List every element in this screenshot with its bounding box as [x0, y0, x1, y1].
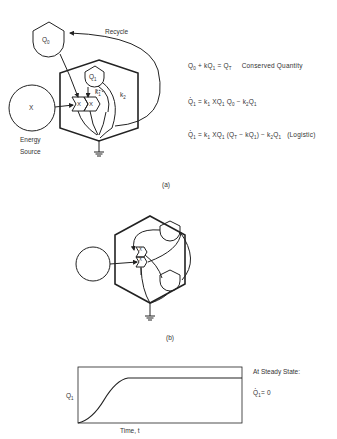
equation-logistic: Q1 = k1 XQ1 (QT − kQ1) − k2Q1 (Logistic): [188, 131, 316, 140]
growth-graph: [78, 367, 242, 423]
recycle-label: Recycle: [105, 28, 128, 35]
energy-label-line2: Source: [20, 148, 41, 155]
k2-label: k2: [120, 91, 126, 100]
k1-label: k1: [95, 88, 101, 97]
workgate-b-x-2: X: [139, 257, 142, 262]
equation-rate: Q1 = k1 XQ1 Q0 − k2Q1: [188, 98, 257, 107]
graph-frame: [78, 367, 242, 423]
steady-state-caption: At Steady State:: [253, 368, 300, 375]
q1-label: Q1: [89, 73, 97, 82]
conserved-caption: Conserved Quantity: [242, 62, 303, 69]
energy-source-circle-b: [76, 247, 110, 281]
q0-flow-line: [60, 54, 78, 97]
panel-b: [76, 216, 191, 320]
logistic-curve: [78, 378, 242, 423]
energy-flow-line: [55, 105, 73, 107]
energy-x-label: X: [29, 104, 33, 111]
heat-sink-icon-b: [145, 316, 155, 320]
panel-b-label: (b): [166, 334, 174, 341]
equation-conserved: Q0 + kQ1 = QT Conserved Quantity: [188, 62, 303, 71]
storage-tank-b-lower: [160, 270, 180, 291]
energy-flow-line-b: [110, 262, 137, 264]
steady-state-equation: Q1= 0: [253, 389, 271, 398]
workgate-b-x-1: X: [139, 247, 142, 252]
graph-ylabel: Q1: [66, 392, 74, 401]
consumer-hexagon: [60, 60, 138, 141]
heat-sink-icon: [94, 152, 104, 156]
workgate-x-label-1: X: [77, 101, 81, 107]
workgate-x-label-2: X: [89, 101, 93, 107]
q0-label: Q0: [42, 36, 50, 45]
graph-xlabel: Time, t: [120, 427, 140, 434]
energy-label-line1: Energy: [20, 136, 41, 143]
logistic-caption: (Logistic): [287, 131, 315, 138]
panel-a-label: (a): [162, 181, 170, 188]
